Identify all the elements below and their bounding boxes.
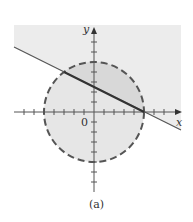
origin-label: 0	[81, 116, 88, 129]
x-axis-label: x	[176, 116, 183, 129]
graph: y x 0	[0, 0, 193, 222]
y-axis-label: y	[82, 23, 90, 36]
figure-caption: (a)	[0, 198, 193, 211]
